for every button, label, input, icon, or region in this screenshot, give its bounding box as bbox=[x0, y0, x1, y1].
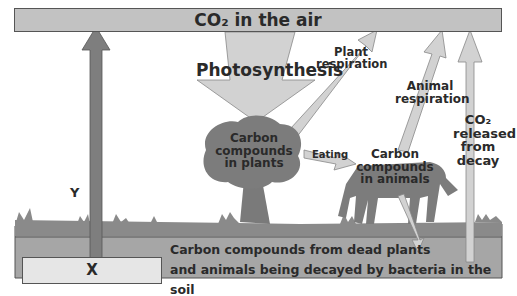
plant-respiration-label: Plant respiration bbox=[316, 46, 386, 70]
co2-decay-label: CO₂ released from decay bbox=[453, 113, 503, 168]
soil-line-2: and animals being decayed by bacteria in… bbox=[170, 260, 517, 296]
x-label: X bbox=[22, 257, 162, 284]
animal-carbon-label: Carbon compounds in animals bbox=[355, 148, 435, 186]
y-label: Y bbox=[70, 186, 79, 200]
animal-respiration-label: Animal respiration bbox=[395, 80, 465, 105]
soil-line-1: Carbon compounds from dead plants bbox=[170, 240, 517, 260]
soil-description: Carbon compounds from dead plants and an… bbox=[170, 240, 517, 296]
eating-label: Eating bbox=[312, 150, 348, 161]
plant-carbon-label: Carbon compounds in plants bbox=[214, 132, 294, 170]
co2-air-label: CO₂ in the air bbox=[14, 8, 502, 32]
